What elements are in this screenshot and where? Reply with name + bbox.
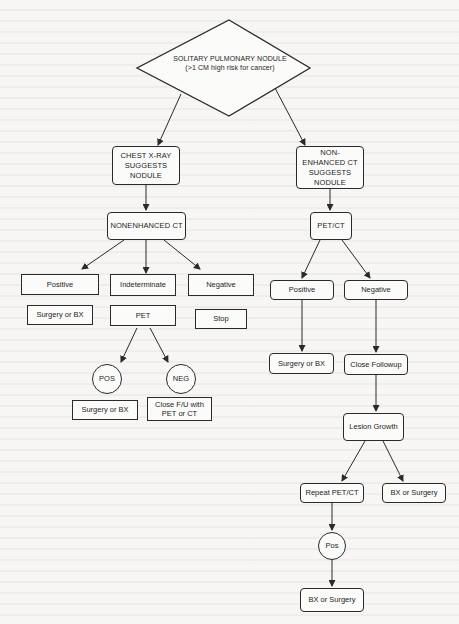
nonenhanced-ct-label: NONENHANCED CT [110, 221, 182, 231]
pet-ct-node: PET/CT [310, 212, 352, 240]
right-positive-node: Positive [270, 280, 334, 300]
pet-pos-label: POS [99, 374, 115, 384]
pet-neg-circle: NEG [166, 364, 196, 394]
left-positive-label: Positive [47, 280, 73, 290]
left-indeterminate-label: Indeterminate [120, 280, 166, 290]
right-bx-surgery-label: BX or Surgery [390, 488, 437, 498]
root-line2: (>1 CM high risk for cancer) [155, 63, 305, 72]
pet-neg-followup-label: Close F/U with PET or CT [152, 400, 207, 418]
close-followup-node: Close Followup [344, 354, 408, 375]
pet-pos-circle: POS [92, 364, 122, 394]
stop-label: Stop [213, 314, 228, 324]
right-surgery-bx-label: Surgery or BX [278, 359, 325, 369]
final-bx-surgery-node: BX or Surgery [300, 588, 364, 612]
repeat-pet-ct-node: Repeat PET/CT [300, 483, 364, 503]
stop-node: Stop [195, 309, 247, 329]
chest-xray-node: CHEST X-RAY SUGGESTS NODULE [112, 146, 180, 185]
lesion-growth-node: Lesion Growth [343, 413, 404, 441]
root-decision-label: SOLITARY PULMONARY NODULE (>1 CM high ri… [155, 54, 305, 72]
right-negative-node: Negative [344, 280, 408, 300]
right-positive-label: Positive [289, 285, 315, 295]
non-enhanced-ct-label: NON-ENHANCED CT SUGGESTS NODULE [299, 148, 361, 188]
left-indeterminate-node: Indeterminate [110, 274, 176, 296]
nonenhanced-ct-node: NONENHANCED CT [107, 212, 186, 240]
final-bx-surgery-label: BX or Surgery [308, 595, 355, 605]
pet-pos-surgery-label: Surgery or BX [81, 405, 128, 415]
pet-neg-followup-node: Close F/U with PET or CT [147, 397, 212, 421]
repeat-pos-label: Pos [326, 541, 339, 551]
left-surgery-bx-node: Surgery or BX [27, 305, 93, 325]
left-negative-label: Negative [206, 280, 236, 290]
lesion-growth-label: Lesion Growth [349, 422, 397, 432]
left-negative-node: Negative [188, 274, 254, 296]
chest-xray-label: CHEST X-RAY SUGGESTS NODULE [116, 151, 176, 181]
right-bx-surgery-node: BX or Surgery [382, 483, 446, 503]
close-followup-label: Close Followup [350, 360, 401, 370]
repeat-pet-ct-label: Repeat PET/CT [306, 488, 359, 498]
right-surgery-bx-node: Surgery or BX [269, 353, 334, 374]
pet-pos-surgery-node: Surgery or BX [72, 400, 138, 420]
pet-node: PET [110, 305, 176, 326]
left-positive-node: Positive [21, 274, 99, 295]
pet-neg-label: NEG [173, 374, 189, 384]
right-negative-label: Negative [361, 285, 391, 295]
non-enhanced-ct-node: NON-ENHANCED CT SUGGESTS NODULE [296, 146, 364, 189]
repeat-pos-circle: Pos [318, 532, 346, 560]
pet-ct-label: PET/CT [317, 221, 344, 231]
root-line1: SOLITARY PULMONARY NODULE [155, 54, 305, 63]
left-surgery-bx-label: Surgery or BX [36, 310, 83, 320]
pet-label: PET [136, 311, 151, 321]
